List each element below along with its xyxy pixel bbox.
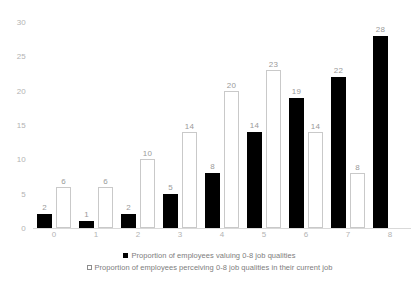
bar-group: 514	[159, 22, 201, 228]
bar-value-label: 2	[42, 203, 47, 212]
bar-valuing: 22	[331, 77, 346, 228]
bar-value-label: 14	[311, 122, 320, 131]
bar-value-label: 1	[84, 210, 89, 219]
bar-value-label: 5	[168, 183, 173, 192]
bar-value-label: 2	[126, 203, 131, 212]
x-axis-baseline	[33, 228, 411, 229]
bar-group: 1914	[285, 22, 327, 228]
bar-group: 26	[33, 22, 75, 228]
x-axis-tick-label: 3	[159, 230, 201, 244]
bar-valuing: 14	[247, 132, 262, 228]
bar-perceiving: 6	[56, 187, 71, 228]
bar-group: 210	[117, 22, 159, 228]
bar-perceiving: 10	[140, 159, 155, 228]
bar-group: 820	[201, 22, 243, 228]
bar-group: 1423	[243, 22, 285, 228]
y-axis-tick-label: 20	[17, 86, 26, 95]
bar-perceiving: 14	[182, 132, 197, 228]
y-axis-tick-labels: 051015202530	[0, 22, 30, 228]
x-axis-tick-label: 5	[243, 230, 285, 244]
bar-value-label: 6	[61, 177, 66, 186]
bar-value-label: 8	[355, 163, 360, 172]
bar-value-label: 23	[269, 60, 278, 69]
bar-value-label: 8	[210, 162, 215, 171]
bar-perceiving: 6	[98, 187, 113, 228]
legend-swatch-perceiving-icon	[87, 265, 92, 270]
bar-valuing: 28	[373, 36, 388, 228]
x-axis-category-labels: 012345678	[33, 230, 411, 244]
x-axis-tick-label: 1	[75, 230, 117, 244]
legend-item: Proportion of employees perceiving 0-8 j…	[0, 262, 419, 274]
legend-item: Proportion of employees valuing 0-8 job …	[0, 250, 419, 262]
bar-perceiving: 20	[224, 91, 239, 228]
bar-perceiving: 23	[266, 70, 281, 228]
chart-legend: Proportion of employees valuing 0-8 job …	[0, 250, 419, 274]
bar-perceiving: 14	[308, 132, 323, 228]
bar-value-label: 20	[227, 81, 236, 90]
legend-item-label: Proportion of employees valuing 0-8 job …	[131, 251, 295, 260]
legend-swatch-valuing-icon	[123, 253, 128, 258]
y-axis-tick-label: 10	[17, 155, 26, 164]
y-axis-tick-label: 5	[21, 189, 26, 198]
bar-group: 28	[369, 22, 411, 228]
bar-value-label: 6	[103, 177, 108, 186]
bar-groups: 26162105148201423191422828	[33, 22, 411, 228]
y-axis-tick-label: 15	[17, 121, 26, 130]
legend-item-label: Proportion of employees perceiving 0-8 j…	[95, 263, 333, 272]
x-axis-tick-label: 6	[285, 230, 327, 244]
bar-valuing: 8	[205, 173, 220, 228]
bar-perceiving: 8	[350, 173, 365, 228]
bar-group: 228	[327, 22, 369, 228]
bar-value-label: 14	[250, 121, 259, 130]
bar-valuing: 1	[79, 221, 94, 228]
y-axis-tick-label: 0	[21, 224, 26, 233]
x-axis-tick-label: 4	[201, 230, 243, 244]
bar-valuing: 5	[163, 194, 178, 228]
bar-value-label: 10	[143, 149, 152, 158]
x-axis-tick-label: 7	[327, 230, 369, 244]
bar-valuing: 19	[289, 98, 304, 228]
y-axis-tick-label: 30	[17, 18, 26, 27]
bar-valuing: 2	[37, 214, 52, 228]
bar-value-label: 19	[292, 87, 301, 96]
bar-value-label: 28	[376, 25, 385, 34]
bar-group: 16	[75, 22, 117, 228]
bar-chart: 051015202530 26162105148201423191422828 …	[0, 0, 419, 291]
x-axis-tick-label: 0	[33, 230, 75, 244]
x-axis-tick-label: 2	[117, 230, 159, 244]
bar-value-label: 22	[334, 66, 343, 75]
bar-value-label: 14	[185, 122, 194, 131]
plot-area: 26162105148201423191422828	[33, 22, 411, 228]
bar-valuing: 2	[121, 214, 136, 228]
x-axis-tick-label: 8	[369, 230, 411, 244]
y-axis-tick-label: 25	[17, 52, 26, 61]
